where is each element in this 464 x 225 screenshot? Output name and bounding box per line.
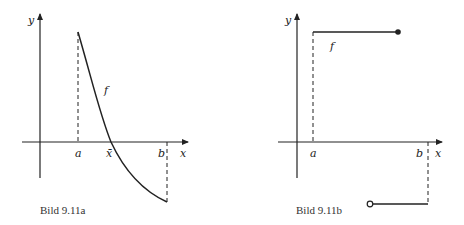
- open-dot-icon: [367, 201, 373, 207]
- y-axis-label-a: y: [27, 14, 35, 27]
- function-curve-f: [78, 32, 167, 202]
- caption-a: Bild 9.11a: [40, 204, 85, 216]
- tick-label-xbar: x̄: [106, 147, 113, 160]
- curve-label-f-b: f: [329, 40, 336, 53]
- tick-label-b-b: b: [416, 147, 423, 160]
- figure-a: y x a x̄ b f: [22, 14, 188, 202]
- x-axis-label-a: x: [180, 147, 187, 160]
- curve-label-f: f: [103, 84, 110, 97]
- closed-dot-icon: [395, 29, 401, 35]
- tick-label-a-b: a: [310, 147, 317, 160]
- y-axis-label-b: y: [284, 14, 292, 27]
- tick-label-b: b: [158, 147, 165, 160]
- x-axis-label-b: x: [435, 147, 442, 160]
- figure-b: y x a b f: [278, 14, 442, 207]
- figure-canvas: y x a x̄ b f y x a b f: [0, 0, 464, 225]
- tick-label-a: a: [75, 147, 82, 160]
- caption-b: Bild 9.11b: [296, 204, 342, 216]
